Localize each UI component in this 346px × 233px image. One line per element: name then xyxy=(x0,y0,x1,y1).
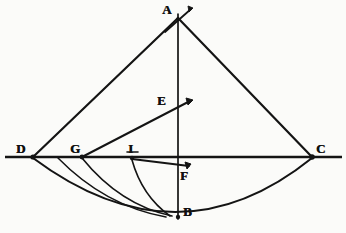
point-label-d: D xyxy=(16,142,25,155)
point-label-f: F xyxy=(180,169,188,182)
point-label-a: A xyxy=(162,3,171,16)
vertex-dot-a xyxy=(176,17,180,21)
leg-a-to-c xyxy=(178,18,312,157)
ray-g-to-e xyxy=(82,101,190,157)
ray-i-to-f xyxy=(132,159,189,166)
construction-drawing xyxy=(0,0,346,233)
vertex-dot-i xyxy=(130,156,134,160)
vertex-dot-g xyxy=(80,155,85,160)
arc-d-to-c-through-b xyxy=(33,158,312,212)
leg-d-to-a xyxy=(33,18,178,157)
point-label-c: C xyxy=(316,142,325,155)
point-label-b: B xyxy=(183,205,192,218)
point-label-i: I xyxy=(128,142,133,155)
vertex-dot-c xyxy=(309,154,315,160)
arrowhead-at-e-ray xyxy=(186,98,193,105)
vertex-dot-d xyxy=(30,154,35,159)
geometric-figure: A B C D E F G I xyxy=(0,0,346,233)
point-label-e: E xyxy=(157,94,166,107)
arrowhead-at-a-tick xyxy=(188,6,193,12)
point-label-g: G xyxy=(70,142,80,155)
vertex-dot-b xyxy=(176,215,180,219)
